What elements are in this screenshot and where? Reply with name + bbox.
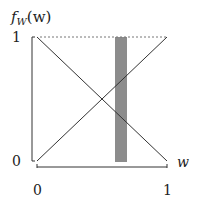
y-tick-label-0: 0: [12, 153, 21, 169]
x-tick-label-1: 1: [163, 182, 172, 198]
x-tick-label-0: 0: [33, 182, 42, 198]
y-tick-label-1: 1: [12, 29, 21, 45]
diagram-canvas: fW(w) 1 0 w 0 1: [0, 0, 198, 207]
shaded-band: [115, 37, 127, 162]
x-axis-label: w: [177, 154, 189, 170]
y-axis: [32, 37, 35, 161]
x-axis: [37, 164, 167, 168]
y-axis-label: fW(w): [10, 8, 51, 27]
